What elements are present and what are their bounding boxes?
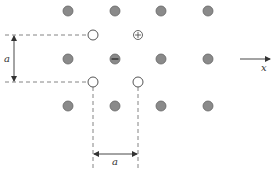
vacancy-site	[88, 30, 98, 40]
vertical-spacing-label: a	[4, 53, 10, 64]
lattice-atom	[156, 101, 166, 111]
horizontal-spacing-label: a	[112, 156, 118, 167]
lattice-atom	[203, 6, 213, 16]
lattice-atom	[203, 101, 213, 111]
lattice-atom	[110, 6, 120, 16]
lattice-atom	[63, 54, 73, 64]
crystal-lattice-diagram: a a x	[0, 0, 276, 170]
vacancy-site	[133, 77, 143, 87]
x-axis-label: x	[261, 62, 267, 73]
vacancy-site	[88, 77, 98, 87]
lattice-atom	[203, 54, 213, 64]
lattice-atom	[63, 6, 73, 16]
lattice-atom	[156, 6, 166, 16]
lattice-atom	[110, 101, 120, 111]
lattice-atom	[156, 54, 166, 64]
lattice-atom	[63, 101, 73, 111]
